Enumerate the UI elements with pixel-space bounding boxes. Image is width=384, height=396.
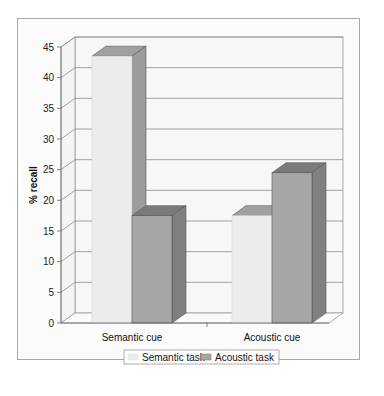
- bar-side: [312, 163, 326, 323]
- bar-front: [92, 56, 132, 323]
- legend-label: Semantic task: [142, 352, 206, 363]
- side-wall: [61, 37, 75, 323]
- legend-label: Acoustic task: [215, 352, 275, 363]
- y-tick-label: 5: [48, 287, 54, 298]
- y-tick-label: 20: [43, 195, 55, 206]
- y-tick-label: 30: [43, 134, 55, 145]
- y-axis-label: % recall: [28, 166, 39, 204]
- category-label: Acoustic cue: [244, 332, 301, 343]
- y-tick-label: 15: [43, 226, 55, 237]
- y-tick-label: 25: [43, 164, 55, 175]
- legend: Semantic taskAcoustic task: [124, 350, 279, 364]
- category-label: Semantic cue: [102, 332, 163, 343]
- category-labels: Semantic cueAcoustic cue: [102, 332, 301, 343]
- y-tick-label: 40: [43, 72, 55, 83]
- y-tick-label: 45: [43, 42, 55, 53]
- bar-front: [232, 216, 272, 323]
- bar-side: [172, 206, 186, 323]
- y-tick-label: 0: [48, 318, 54, 329]
- bar-front: [272, 173, 312, 323]
- bar: [132, 206, 186, 323]
- bar-chart: 051015202530354045 % recall Semantic cue…: [0, 0, 384, 396]
- bar-front: [132, 216, 172, 323]
- legend-swatch: [201, 354, 211, 360]
- y-tick-label: 10: [43, 256, 55, 267]
- y-tick-label: 35: [43, 103, 55, 114]
- bar: [272, 163, 326, 323]
- legend-swatch: [128, 354, 138, 360]
